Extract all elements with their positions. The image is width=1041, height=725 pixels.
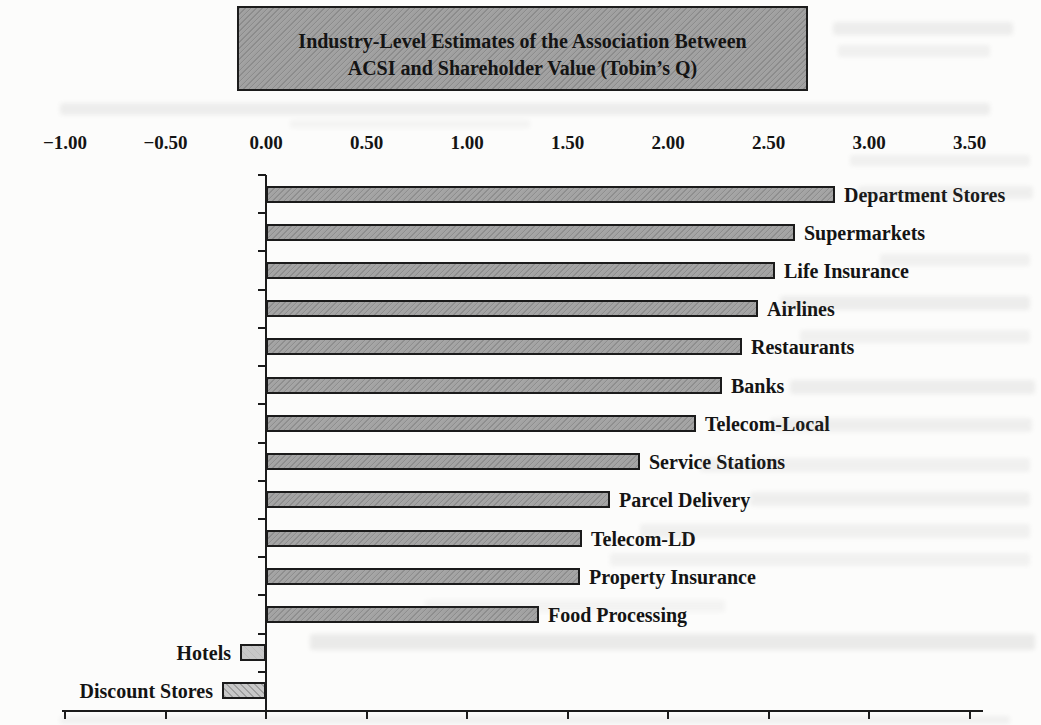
bar-texture	[268, 264, 773, 277]
bar-label-property-insurance: Property Insurance	[589, 565, 756, 589]
bleedthrough-artifact	[750, 492, 1030, 506]
x-axis-tick-label: 2.00	[651, 132, 684, 154]
bar-texture	[268, 188, 833, 201]
chart-title-line-1: Industry-Level Estimates of the Associat…	[298, 28, 746, 55]
category-axis-tick	[258, 556, 266, 558]
bar-texture	[268, 455, 638, 468]
chart-title-line-2: ACSI and Shareholder Value (Tobin’s Q)	[348, 55, 698, 82]
x-axis-tick-label: 3.50	[953, 132, 986, 154]
bleedthrough-artifact	[700, 458, 1030, 472]
bleedthrough-artifact	[640, 524, 1030, 538]
bar-label-parcel-delivery: Parcel Delivery	[619, 488, 750, 512]
bar-property-insurance	[266, 568, 580, 585]
x-axis-tick-label: −1.00	[43, 132, 87, 154]
x-axis-tick-label: 2.50	[752, 132, 785, 154]
bar-texture	[268, 570, 578, 583]
bar-parcel-delivery	[266, 491, 610, 508]
bleedthrough-artifact	[800, 330, 1030, 343]
x-axis-tick-label: 0.00	[249, 132, 282, 154]
category-axis-tick	[258, 403, 266, 405]
x-axis-tick-label: 1.50	[551, 132, 584, 154]
bar-life-insurance	[266, 262, 775, 279]
bar-supermarkets	[266, 224, 795, 241]
category-axis-tick	[258, 212, 266, 214]
category-axis-tick	[258, 289, 266, 291]
bleedthrough-artifact	[290, 120, 530, 128]
bleedthrough-artifact	[610, 553, 1030, 566]
bleedthrough-artifact	[770, 418, 1032, 432]
bar-label-banks: Banks	[731, 374, 784, 398]
x-axis-tick-label: 0.50	[350, 132, 383, 154]
bleedthrough-artifact	[425, 600, 725, 612]
bar-texture	[268, 340, 740, 353]
bar-department-stores	[266, 186, 835, 203]
category-axis-tick	[258, 480, 266, 482]
category-axis-tick	[258, 250, 266, 252]
bleedthrough-artifact	[60, 103, 990, 115]
bar-discount-stores	[222, 682, 266, 699]
bleedthrough-artifact	[833, 22, 1013, 35]
bar-telecom-local	[266, 415, 696, 432]
category-axis-line	[265, 175, 267, 718]
bar-texture	[268, 226, 793, 239]
bar-telecom-ld	[266, 530, 582, 547]
bar-service-stations	[266, 453, 640, 470]
bar-texture	[242, 646, 264, 659]
x-axis-tick-label: 1.00	[450, 132, 483, 154]
bar-airlines	[266, 300, 758, 317]
category-axis-tick	[258, 518, 266, 520]
bar-texture	[268, 302, 756, 315]
bleedthrough-artifact	[838, 45, 990, 57]
chart-title-box: Industry-Level Estimates of the Associat…	[237, 6, 808, 91]
bar-label-discount-stores: Discount Stores	[79, 679, 213, 703]
scanned-book-page: Industry-Level Estimates of the Associat…	[0, 0, 1041, 725]
category-axis-tick	[258, 633, 266, 635]
bar-texture	[224, 684, 264, 697]
bleedthrough-artifact	[790, 380, 1035, 394]
bar-texture	[268, 417, 694, 430]
bleedthrough-artifact	[60, 716, 1010, 724]
category-axis-tick	[258, 442, 266, 444]
category-axis-tick	[258, 327, 266, 329]
bar-banks	[266, 377, 722, 394]
category-axis-tick	[258, 365, 266, 367]
category-axis-tick	[258, 174, 266, 176]
bar-hotels	[240, 644, 266, 661]
bar-label-supermarkets: Supermarkets	[804, 221, 925, 245]
value-axis-line	[62, 710, 983, 712]
category-axis-tick	[258, 671, 266, 673]
bar-texture	[268, 493, 608, 506]
x-axis-tick-label: 3.00	[852, 132, 885, 154]
bar-label-hotels: Hotels	[177, 641, 231, 665]
bleedthrough-artifact	[880, 254, 1030, 266]
category-axis-tick	[258, 594, 266, 596]
bar-texture	[268, 379, 720, 392]
x-axis-tick-label: −0.50	[143, 132, 187, 154]
bleedthrough-artifact	[850, 155, 1030, 166]
bleedthrough-artifact	[858, 186, 1033, 199]
bar-texture	[268, 532, 580, 545]
bleedthrough-artifact	[780, 296, 1030, 310]
bleedthrough-artifact	[310, 634, 1035, 650]
bar-restaurants	[266, 338, 742, 355]
